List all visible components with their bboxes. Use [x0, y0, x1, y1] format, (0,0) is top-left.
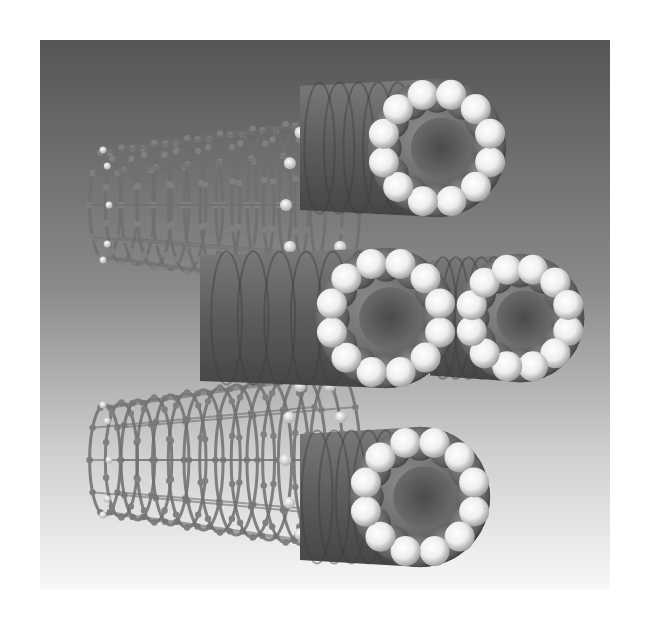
carbon-atom: [262, 394, 268, 400]
carbon-atom: [141, 406, 147, 412]
carbon-atom: [293, 175, 299, 181]
hydrogen-atom: [369, 147, 399, 177]
carbon-atom: [236, 479, 242, 485]
carbon-atom: [198, 224, 204, 230]
carbon-atom: [205, 398, 211, 404]
hydrogen-atom: [408, 80, 438, 110]
tube-opening: [393, 466, 455, 528]
carbon-atom: [304, 227, 310, 233]
hydrogen-atom: [445, 522, 475, 552]
tube-opening: [411, 118, 472, 179]
carbon-atom: [270, 225, 276, 231]
carbon-atom: [134, 476, 140, 482]
tube-opening: [359, 287, 421, 349]
carbon-atom: [229, 481, 235, 487]
carbon-atom: [195, 148, 201, 154]
hydrogen-atom: [279, 454, 291, 466]
carbon-atom: [237, 140, 243, 146]
hydrogen-atom: [553, 290, 583, 320]
hydrogen-atom: [100, 512, 107, 519]
carbon-atom: [261, 431, 267, 437]
hydrogen-atom: [284, 157, 296, 169]
carbon-atom: [197, 434, 203, 440]
hydrogen-atom: [459, 467, 489, 497]
carbon-atom: [173, 511, 179, 517]
top-ring: [300, 79, 506, 218]
carbon-atom: [261, 482, 267, 488]
hydrogen-atom: [104, 240, 111, 247]
carbon-atom: [229, 433, 235, 439]
carbon-atom: [293, 228, 299, 234]
hydrogen-atom: [100, 257, 107, 264]
carbon-atom: [135, 221, 141, 227]
hydrogen-atom: [104, 495, 111, 502]
carbon-atom: [338, 228, 344, 234]
carbon-atom: [236, 180, 242, 186]
middle-left-ring: [200, 248, 456, 388]
hydrogen-atom: [351, 468, 381, 498]
hydrogen-atom: [445, 442, 475, 472]
hydrogen-atom: [518, 351, 548, 381]
hydrogen-atom: [104, 163, 111, 170]
hydrogen-atom: [283, 411, 295, 423]
carbon-atom: [195, 511, 201, 517]
carbon-atom: [161, 152, 167, 158]
hydrogen-atom: [425, 288, 455, 318]
carbon-atom: [262, 140, 268, 146]
carbon-atom: [270, 178, 276, 184]
hydrogen-atom: [390, 428, 420, 458]
hydrogen-atom: [425, 317, 455, 347]
hydrogen-atom: [457, 316, 487, 346]
bottom-ring: [300, 427, 490, 567]
carbon-atom: [103, 220, 109, 226]
hydrogen-atom: [331, 343, 361, 373]
hydrogen-atom: [492, 255, 522, 285]
carbon-atom: [229, 515, 235, 521]
hydrogen-atom: [317, 289, 347, 319]
carbon-atom: [109, 503, 115, 509]
carbon-atom: [161, 507, 167, 513]
carbon-atom: [173, 256, 179, 262]
carbon-atom: [237, 394, 243, 400]
carbon-atom: [109, 410, 115, 416]
carbon-atom: [270, 481, 276, 487]
hydrogen-atom: [106, 457, 113, 464]
hydrogen-atom: [365, 522, 395, 552]
carbon-atom: [269, 136, 275, 142]
carbon-atom: [135, 183, 141, 189]
hydrogen-atom: [335, 411, 347, 423]
tube-opening: [497, 291, 552, 346]
hydrogen-atom: [436, 186, 466, 216]
carbon-atom: [229, 398, 235, 404]
carbon-atom: [173, 148, 179, 154]
carbon-atom: [229, 178, 235, 184]
carbon-atom: [109, 155, 115, 161]
carbon-atom: [270, 433, 276, 439]
carbon-atom: [166, 181, 172, 187]
carbon-atom: [161, 252, 167, 258]
carbon-atom: [166, 478, 172, 484]
hydrogen-atom: [475, 119, 505, 149]
hydrogen-atom: [385, 249, 415, 279]
carbon-atom: [103, 439, 109, 445]
carbon-atom: [198, 180, 204, 186]
carbon-atom: [109, 248, 115, 254]
carbon-atom: [269, 524, 275, 530]
carbon-atom: [237, 519, 243, 525]
hydrogen-atom: [411, 263, 441, 293]
hydrogen-atom: [419, 428, 449, 458]
hydrogen-atom: [331, 263, 361, 293]
carbon-atom: [229, 144, 235, 150]
hydrogen-atom: [459, 496, 489, 526]
hydrogen-atom: [365, 442, 395, 472]
hydrogen-atom: [283, 497, 295, 509]
carbon-atom: [103, 184, 109, 190]
hydrogen-atom: [106, 202, 113, 209]
carbon-atom: [205, 144, 211, 150]
carbon-atom: [205, 515, 211, 521]
hydrogen-atom: [317, 318, 347, 348]
hydrogen-atom: [386, 357, 416, 387]
carbon-atom: [166, 222, 172, 228]
hydrogen-atom: [280, 199, 292, 211]
carbon-atom: [195, 402, 201, 408]
